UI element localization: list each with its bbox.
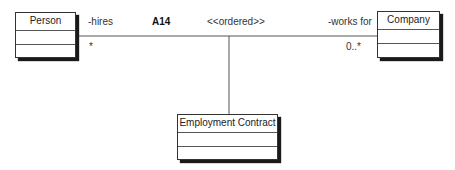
role-label-works-for: -works for — [328, 16, 372, 27]
class-name-employment-contract: Employment Contract — [178, 115, 277, 132]
attributes-compartment-employment-contract — [178, 132, 277, 146]
attributes-compartment-company — [378, 29, 439, 43]
class-name-company: Company — [378, 12, 439, 29]
uml-diagram-canvas: Person Company Employment Contract -hire… — [0, 0, 455, 170]
role-label-hires: -hires — [88, 16, 113, 27]
association-name-label: A14 — [152, 16, 170, 27]
operations-compartment-person — [16, 44, 75, 58]
operations-compartment-employment-contract — [178, 146, 277, 160]
stereotype-label: <<ordered>> — [207, 16, 265, 27]
multiplicity-right: 0..* — [346, 41, 361, 52]
class-company[interactable]: Company — [377, 11, 440, 58]
multiplicity-left: * — [89, 41, 93, 52]
class-employment-contract[interactable]: Employment Contract — [177, 114, 278, 160]
class-name-person: Person — [16, 13, 75, 30]
class-person[interactable]: Person — [15, 12, 76, 58]
attributes-compartment-person — [16, 30, 75, 44]
operations-compartment-company — [378, 43, 439, 57]
